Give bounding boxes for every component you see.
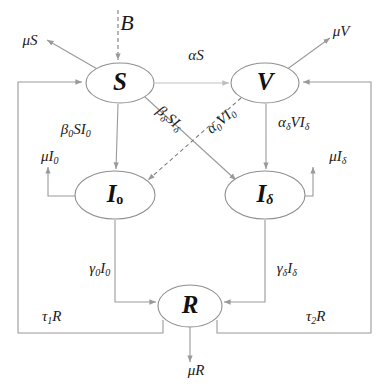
edge-death-S <box>47 40 99 70</box>
flow-label-death-R: μR <box>187 362 205 378</box>
flow-label-recovery-Id: γδIδ <box>250 260 315 280</box>
edge-recovery-I0-to-R <box>115 220 156 302</box>
edge-death-V <box>286 38 330 70</box>
node-S-label: S <box>113 68 127 95</box>
flow-label-death-I0: μI0 <box>15 148 78 168</box>
node-R[interactable]: R <box>158 285 222 327</box>
flow-label-recovery-I0: γ0I0 <box>63 260 129 280</box>
flow-label-death-V: μV <box>332 23 352 39</box>
flow-label-waning-to-V: τ2R <box>280 308 345 326</box>
node-R-label: R <box>181 291 199 318</box>
node-V-label: V <box>257 68 276 95</box>
diagram-canvas: S V Io Iδ R B μS μV αS β0SI0 <box>0 0 384 389</box>
edge-infection-S-to-I0 <box>116 104 118 169</box>
compartmental-model-diagram: S V Io Iδ R B μS μV αS β0SI0 <box>0 0 384 389</box>
flow-label-infection-S-I0: β0SI0 <box>35 121 110 141</box>
flow-label-waning-to-S: τ1R <box>16 308 81 326</box>
flow-label-birth: B <box>120 10 133 35</box>
edge-death-I0 <box>48 167 77 196</box>
node-I0[interactable]: Io <box>75 171 155 219</box>
flow-label-infection-V-I0: α0VI0 <box>183 92 255 157</box>
flow-label-death-S: μS <box>21 32 38 48</box>
flow-label-death-Id: μIδ <box>303 148 365 168</box>
node-Id[interactable]: Iδ <box>225 171 305 219</box>
flow-label-vaccination: αS <box>188 47 204 63</box>
flow-label-infection-V-Id: αδVIδ <box>252 114 328 134</box>
